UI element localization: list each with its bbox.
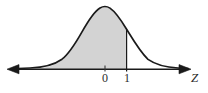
tick-label-one: 1	[121, 72, 133, 84]
axis-left-arrowhead	[7, 65, 19, 74]
axis-variable-label-z: Z	[191, 71, 198, 84]
shaded-area-left-of-one	[16, 7, 127, 69]
normal-curve-figure: 0 1 Z	[0, 0, 208, 93]
tick-label-zero: 0	[99, 72, 111, 84]
axis-right-arrowhead	[179, 65, 191, 74]
